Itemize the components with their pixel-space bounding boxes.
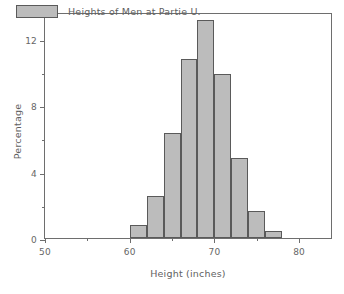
legend-swatch-icon (16, 5, 58, 18)
y-tick-label: 0 (31, 235, 37, 245)
y-tick-label: 8 (31, 102, 37, 112)
histogram-bar (164, 133, 181, 238)
x-tick-major (214, 238, 215, 243)
x-tick-minor (172, 238, 173, 241)
x-axis-title: Height (inches) (44, 268, 332, 279)
x-tick-minor (257, 238, 258, 241)
histogram-bar (248, 211, 265, 238)
x-tick-minor (87, 238, 88, 241)
y-tick-major (40, 174, 45, 175)
histogram-bar (181, 59, 198, 238)
histogram-bar (265, 231, 282, 238)
x-tick-label: 60 (124, 247, 136, 257)
histogram-bar (231, 158, 248, 238)
y-tick-minor (42, 140, 45, 141)
x-tick-label: 70 (208, 247, 220, 257)
x-tick-label: 50 (39, 247, 51, 257)
y-tick-major (40, 107, 45, 108)
y-axis-title: Percentage (12, 92, 23, 172)
x-tick-label: 80 (293, 247, 305, 257)
bars-layer (45, 14, 331, 238)
histogram-bar (130, 225, 147, 238)
x-tick-major (45, 238, 46, 243)
histogram-bar (147, 196, 164, 238)
x-tick-major (130, 238, 131, 243)
histogram-figure: 04812 50607080 Percentage Height (inches… (0, 0, 344, 294)
legend-label: Heights of Men at Partie U. (68, 6, 201, 17)
y-tick-label: 4 (31, 169, 37, 179)
histogram-bar (197, 20, 214, 238)
y-tick-minor (42, 207, 45, 208)
y-tick-label: 12 (25, 36, 37, 46)
plot-area: 04812 50607080 (44, 13, 332, 239)
histogram-bar (214, 74, 231, 239)
y-tick-major (40, 41, 45, 42)
y-tick-minor (42, 74, 45, 75)
legend: Heights of Men at Partie U. (16, 5, 201, 18)
x-tick-major (299, 238, 300, 243)
